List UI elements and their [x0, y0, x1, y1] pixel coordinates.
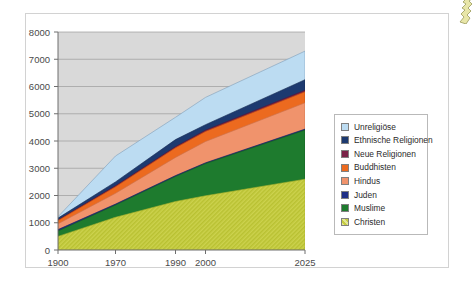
legend-item-juden[interactable]: Juden	[341, 188, 422, 202]
y-tick-label: 5000	[29, 108, 50, 119]
x-axis-tick-labels: 1900 1970 1990 2000 2025	[47, 257, 315, 268]
legend-swatch-icon	[341, 191, 349, 199]
legend-swatch-icon	[341, 150, 349, 158]
y-tick-label: 1000	[29, 217, 50, 228]
legend-label: Muslime	[354, 204, 385, 212]
legend-swatch-icon	[341, 204, 349, 212]
legend-item-christen[interactable]: Christen	[341, 215, 422, 229]
legend-swatch-icon	[341, 218, 349, 226]
x-tick-label: 1990	[165, 257, 186, 268]
legend-swatch-icon	[341, 123, 349, 131]
x-tick-label: 1900	[47, 257, 68, 268]
legend-label: Juden	[354, 191, 377, 199]
y-tick-marks	[54, 32, 58, 250]
y-tick-label: 4000	[29, 136, 50, 147]
y-tick-label: 7000	[29, 54, 50, 65]
legend-item-buddhisten[interactable]: Buddhisten	[341, 161, 422, 175]
legend-label: Christen	[354, 218, 385, 226]
y-tick-label: 0	[45, 245, 50, 256]
legend-label: Buddhisten	[354, 163, 396, 171]
y-tick-label: 2000	[29, 190, 50, 201]
x-tick-label: 2025	[294, 257, 315, 268]
x-tick-label: 2000	[195, 257, 216, 268]
legend-item-neue-religionen[interactable]: Neue Religionen	[341, 147, 422, 161]
y-tick-label: 3000	[29, 163, 50, 174]
y-axis-tick-labels: 8000 7000 6000 5000 4000 3000 2000 1000 …	[29, 27, 50, 256]
legend-label: Hindus	[354, 177, 380, 185]
legend-item-ethnische-religionen[interactable]: Ethnische Religionen	[341, 134, 422, 148]
x-tick-marks	[58, 250, 305, 254]
y-tick-label: 8000	[29, 27, 50, 38]
legend-swatch-icon	[341, 164, 349, 172]
x-tick-label: 1970	[105, 257, 126, 268]
legend-label: Ethnische Religionen	[354, 136, 433, 144]
legend-label: Unreligiöse	[354, 123, 396, 131]
chart-legend: Unreligiöse Ethnische Religionen Neue Re…	[334, 114, 428, 235]
legend-item-unreligiose[interactable]: Unreligiöse	[341, 120, 422, 134]
legend-item-hindus[interactable]: Hindus	[341, 174, 422, 188]
legend-swatch-icon	[341, 136, 349, 144]
legend-label: Neue Religionen	[354, 150, 416, 158]
legend-swatch-icon	[341, 177, 349, 185]
y-tick-label: 6000	[29, 81, 50, 92]
legend-item-muslime[interactable]: Muslime	[341, 202, 422, 216]
